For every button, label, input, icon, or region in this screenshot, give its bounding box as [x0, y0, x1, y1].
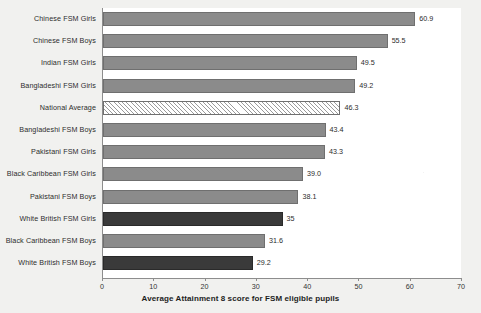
x-tick-label: 50	[354, 282, 362, 291]
bar-value-label: 49.2	[359, 75, 373, 97]
bar-value-label: 55.5	[392, 30, 406, 52]
bar[interactable]	[103, 190, 298, 204]
bar-value-label: 46.3	[344, 97, 358, 119]
x-tick-mark	[461, 278, 462, 281]
x-tick-mark	[358, 278, 359, 281]
x-tick-mark	[410, 278, 411, 281]
bar-category-label: White British FSM Boys	[18, 252, 96, 274]
bar[interactable]	[103, 234, 265, 248]
bar-wrapper	[103, 167, 303, 181]
bar-value-label: 31.6	[269, 230, 283, 252]
bar-category-label: Chinese FSM Girls	[34, 8, 96, 30]
bar-category-label: Bangladeshi FSM Boys	[19, 119, 96, 141]
bar-wrapper	[103, 212, 283, 226]
bar-row: Chinese FSM Boys55.5	[0, 30, 481, 52]
bar-row: Black Caribbean FSM Boys31.6	[0, 230, 481, 252]
bar-value-label: 39.0	[307, 163, 321, 185]
bar-value-label: 60.9	[419, 8, 433, 30]
bar[interactable]	[103, 101, 340, 115]
bar-row: Bangladeshi FSM Girls49.2	[0, 75, 481, 97]
x-tick-mark	[205, 278, 206, 281]
bar-value-label: 43.3	[329, 141, 343, 163]
x-tick-mark	[102, 278, 103, 281]
bar-row: National Average46.3	[0, 97, 481, 119]
bar-category-label: National Average	[40, 97, 96, 119]
bar-category-label: Pakistani FSM Boys	[30, 186, 96, 208]
bar-wrapper	[103, 101, 340, 115]
bar-category-label: Black Caribbean FSM Boys	[6, 230, 96, 252]
bar[interactable]	[103, 56, 357, 70]
bar-wrapper	[103, 56, 357, 70]
bar[interactable]	[103, 34, 388, 48]
bar-category-label: Bangladeshi FSM Girls	[20, 75, 96, 97]
bar-wrapper	[103, 123, 326, 137]
bar-value-label: 43.4	[330, 119, 344, 141]
bar-row: Indian FSM Girls49.5	[0, 52, 481, 74]
bar-wrapper	[103, 12, 415, 26]
x-tick-mark	[256, 278, 257, 281]
bar-row: Black Caribbean FSM Girls39.0	[0, 163, 481, 185]
bar-value-label: 29.2	[257, 252, 271, 274]
bar[interactable]	[103, 256, 253, 270]
x-tick-mark	[153, 278, 154, 281]
x-axis-line	[102, 278, 462, 279]
bar-wrapper	[103, 145, 325, 159]
x-tick-label: 20	[201, 282, 209, 291]
bar-row: Pakistani FSM Girls43.3	[0, 141, 481, 163]
bar-value-label: 35	[287, 208, 295, 230]
bar-category-label: White British FSM Girls	[19, 208, 96, 230]
bar-category-label: Black Caribbean FSM Girls	[7, 163, 96, 185]
bar-category-label: Chinese FSM Boys	[33, 30, 96, 52]
x-tick-label: 70	[457, 282, 465, 291]
bar-row: White British FSM Girls35	[0, 208, 481, 230]
x-tick-label: 0	[100, 282, 104, 291]
bar-row: Pakistani FSM Boys38.1	[0, 186, 481, 208]
x-axis-title: Average Attainment 8 score for FSM eligi…	[0, 294, 481, 303]
x-tick-mark	[307, 278, 308, 281]
x-tick-label: 30	[252, 282, 260, 291]
bar-row: Chinese FSM Girls60.9	[0, 8, 481, 30]
bar-value-label: 38.1	[302, 186, 316, 208]
bar-wrapper	[103, 256, 253, 270]
bar[interactable]	[103, 12, 415, 26]
bar[interactable]	[103, 145, 325, 159]
bar[interactable]	[103, 212, 283, 226]
bar-category-label: Indian FSM Girls	[41, 52, 96, 74]
bar-value-label: 49.5	[361, 52, 375, 74]
bar-wrapper	[103, 190, 298, 204]
bar-wrapper	[103, 234, 265, 248]
bar-row: Bangladeshi FSM Boys43.4	[0, 119, 481, 141]
bar-wrapper	[103, 34, 388, 48]
bar-chart: Chinese FSM Girls60.9Chinese FSM Boys55.…	[0, 0, 481, 313]
x-tick-label: 40	[303, 282, 311, 291]
bar[interactable]	[103, 79, 355, 93]
x-tick-label: 10	[149, 282, 157, 291]
bar-category-label: Pakistani FSM Girls	[31, 141, 96, 163]
bar[interactable]	[103, 167, 303, 181]
x-tick-label: 60	[406, 282, 414, 291]
bar-row: White British FSM Boys29.2	[0, 252, 481, 274]
bar[interactable]	[103, 123, 326, 137]
bar-wrapper	[103, 79, 355, 93]
